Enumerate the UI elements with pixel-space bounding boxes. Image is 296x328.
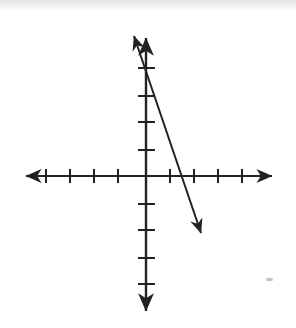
y-axis-group	[138, 38, 155, 311]
x-axis-group	[26, 169, 272, 183]
graph-canvas	[0, 0, 296, 328]
coordinate-plane-figure	[0, 0, 296, 328]
